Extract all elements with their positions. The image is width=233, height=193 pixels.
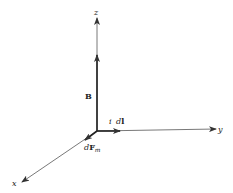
force-diagram: z y x B i dl dFm [0,0,233,193]
z-axis-label: z [93,8,99,17]
idl-label: i dl [109,116,124,126]
dfm-m: m [95,146,101,153]
y-axis-label: y [217,125,223,134]
dfm-vector [85,131,97,140]
idl-i: i [109,117,112,126]
dfm-label: dFm [84,142,101,153]
b-label: B [85,91,92,101]
x-axis-label: x [12,179,17,188]
idl-l: l [121,116,124,126]
